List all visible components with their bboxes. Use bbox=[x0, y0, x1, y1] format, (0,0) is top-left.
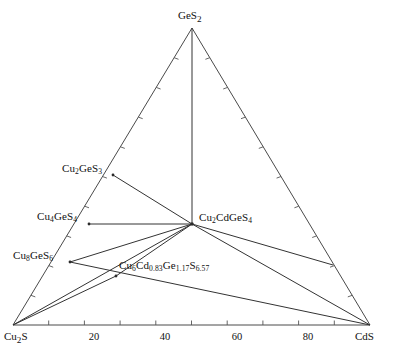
tick-right-70 bbox=[312, 236, 316, 238]
phase-label-cu2cdges4: Cu2CdGeS4 bbox=[199, 212, 252, 223]
node-cu4ges4 bbox=[88, 223, 91, 226]
axis-tick-label-80: 80 bbox=[303, 331, 314, 342]
ternary-plot-canvas bbox=[0, 0, 395, 357]
tick-right-60 bbox=[294, 206, 298, 208]
node-quaternary bbox=[115, 275, 118, 278]
phase-label-cu4ges4: Cu4GeS4 bbox=[37, 211, 77, 222]
corner-label-cds: CdS bbox=[355, 330, 374, 342]
corner-label-cu2s: Cu2S bbox=[4, 330, 28, 345]
tieline-cu8ges6-to-cu2cdges4 bbox=[70, 224, 192, 262]
tick-left-40 bbox=[85, 206, 89, 208]
tick-left-70 bbox=[138, 117, 142, 119]
tieline-cu2ges3-to-cu2cdges4 bbox=[113, 175, 192, 224]
axis-tick-label-40: 40 bbox=[160, 331, 171, 342]
tick-right-90 bbox=[348, 295, 352, 297]
tick-left-10 bbox=[31, 295, 35, 297]
tie-lines bbox=[13, 28, 370, 325]
tick-right-50 bbox=[277, 177, 281, 179]
phase-label-quaternary: Cu6Cd0.83Ge1.17S6.57 bbox=[119, 260, 209, 271]
tick-right-20 bbox=[223, 87, 227, 89]
phase-label-cu2ges3: Cu2GeS3 bbox=[62, 163, 102, 174]
tieline-cu2cdges4-to-cds bbox=[192, 224, 370, 325]
axis-tick-label-60: 60 bbox=[232, 331, 243, 342]
tick-left-80 bbox=[156, 87, 160, 89]
node-cu2cdges4 bbox=[190, 222, 194, 226]
tieline-quaternary-to-cu2s bbox=[13, 276, 116, 325]
tick-left-30 bbox=[67, 236, 71, 238]
tick-right-80 bbox=[330, 266, 334, 268]
tick-right-30 bbox=[241, 117, 245, 119]
tick-right-10 bbox=[205, 58, 209, 60]
corner-label-ges2: GeS2 bbox=[178, 9, 202, 24]
tick-right-40 bbox=[259, 147, 263, 149]
node-cu8ges6 bbox=[69, 261, 72, 264]
node-cu2ges3 bbox=[112, 174, 115, 177]
axis-tick-label-20: 20 bbox=[89, 331, 100, 342]
tieline-cu8ges6-to-quaternary-extended-cds bbox=[70, 262, 370, 325]
tieline-cu2s-to-cu2cdges4 bbox=[13, 224, 192, 325]
tick-left-60 bbox=[120, 147, 124, 149]
tick-left-50 bbox=[103, 177, 107, 179]
tick-left-90 bbox=[174, 58, 178, 60]
tick-left-20 bbox=[49, 266, 53, 268]
ternary-diagram: GeS2 Cu2S CdS 20 40 60 80 Cu2GeS3 Cu4GeS… bbox=[0, 0, 395, 357]
phase-label-cu8ges6: Cu8GeS6 bbox=[13, 250, 53, 261]
tieline-cu2cdges4-to-right-edge bbox=[192, 224, 333, 265]
